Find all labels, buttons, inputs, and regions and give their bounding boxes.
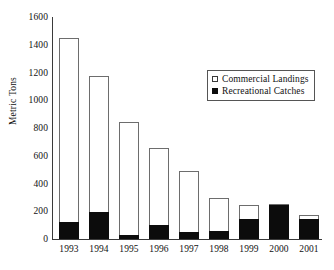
bar-group[interactable] xyxy=(299,215,319,239)
bar-group[interactable] xyxy=(209,198,229,239)
x-tick-label: 1994 xyxy=(89,244,108,254)
x-tick-label: 1993 xyxy=(59,244,78,254)
bar-segment-recreational-catches[interactable] xyxy=(239,219,259,239)
bar-segment-recreational-catches[interactable] xyxy=(119,235,139,239)
bar-segment-recreational-catches[interactable] xyxy=(269,205,289,239)
stacked-bar-chart: Metric Tons 0200400600800100012001400160… xyxy=(0,0,334,270)
x-tick-label: 1995 xyxy=(119,244,138,254)
bar-segment-recreational-catches[interactable] xyxy=(179,232,199,239)
bar-segment-recreational-catches[interactable] xyxy=(209,231,229,239)
bar-group[interactable] xyxy=(179,171,199,239)
chart-legend: Commercial Landings Recreational Catches xyxy=(207,70,315,101)
legend-item-recreational-catches: Recreational Catches xyxy=(212,85,309,97)
x-tick-label: 2001 xyxy=(299,244,318,254)
x-tick-label: 1997 xyxy=(179,244,198,254)
y-axis-title: Metric Tons xyxy=(8,66,18,136)
y-tick-label: 200 xyxy=(33,206,48,216)
legend-item-label: Recreational Catches xyxy=(222,85,304,97)
bar-group[interactable] xyxy=(89,76,109,239)
bar-segment-recreational-catches[interactable] xyxy=(299,219,319,239)
y-tick-label: 1400 xyxy=(29,40,48,50)
y-axis-line xyxy=(52,17,53,240)
filled-square-icon xyxy=(212,88,218,94)
x-tick-label: 1998 xyxy=(209,244,228,254)
bar-group[interactable] xyxy=(119,122,139,239)
x-axis-line xyxy=(52,239,322,240)
bar-segment-recreational-catches[interactable] xyxy=(89,212,109,239)
y-tick-label: 800 xyxy=(33,123,48,133)
bar-group[interactable] xyxy=(239,205,259,239)
x-tick-label: 2000 xyxy=(269,244,288,254)
x-tick-label: 1999 xyxy=(239,244,258,254)
y-tick-label: 1000 xyxy=(29,95,48,105)
bar-group[interactable] xyxy=(149,148,169,239)
open-square-icon xyxy=(212,76,218,82)
y-tick-label: 600 xyxy=(33,151,48,161)
y-tick-label: 0 xyxy=(43,234,48,244)
bar-group[interactable] xyxy=(269,204,289,239)
plot-area: 02004006008001000120014001600 1993199419… xyxy=(52,17,322,239)
y-tick-label: 400 xyxy=(33,179,48,189)
bar-segment-recreational-catches[interactable] xyxy=(149,225,169,239)
x-tick-label: 1996 xyxy=(149,244,168,254)
bar-segment-recreational-catches[interactable] xyxy=(59,222,79,239)
legend-item-label: Commercial Landings xyxy=(222,73,309,85)
bar-segment-commercial-landings[interactable] xyxy=(119,122,139,239)
y-tick-label: 1600 xyxy=(29,12,48,22)
bar-segment-commercial-landings[interactable] xyxy=(59,38,79,239)
bar-group[interactable] xyxy=(59,38,79,239)
bar-segment-commercial-landings[interactable] xyxy=(179,171,199,239)
legend-item-commercial-landings: Commercial Landings xyxy=(212,73,309,85)
y-tick-label: 1200 xyxy=(29,68,48,78)
